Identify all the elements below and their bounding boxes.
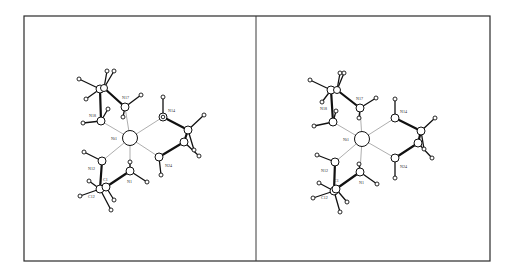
atom-n24 xyxy=(155,153,163,161)
label-c12: C12 xyxy=(88,194,95,199)
atom-c1 xyxy=(102,183,110,191)
label-n14: N14 xyxy=(168,108,175,113)
label-n12-right: N12 xyxy=(321,168,328,173)
label-ni1-right: Ni1 xyxy=(343,137,349,142)
label-c12-right: C12 xyxy=(321,195,328,200)
label-n17-right: N17 xyxy=(356,96,363,101)
label-n17: N17 xyxy=(122,95,129,100)
atom-ni1 xyxy=(123,131,138,146)
label-n1-right: N1 xyxy=(359,180,364,185)
label-n1: N1 xyxy=(127,179,132,184)
label-n24: N24 xyxy=(165,163,172,168)
atom-n18 xyxy=(97,117,105,125)
atom-n17 xyxy=(121,103,129,111)
label-n12: N12 xyxy=(88,166,95,171)
label-n18-right: N18 xyxy=(320,106,327,111)
stereo-molecule-figure: N18 N17 N14 Ni1 N24 N12 C1 N1 C12 xyxy=(0,0,511,279)
atom-n12 xyxy=(98,157,106,165)
label-n18: N18 xyxy=(89,113,96,118)
label-n14-right: N14 xyxy=(400,109,407,114)
left-molecule-view: N18 N17 N14 Ni1 N24 N12 C1 N1 C12 xyxy=(77,69,206,212)
right-molecule-view: N18 N17 N14 Ni1 N24 N12 C1 N1 C12 xyxy=(308,71,437,214)
label-c1: C1 xyxy=(103,177,108,182)
label-c1-right: C1 xyxy=(334,178,339,183)
label-ni1: Ni1 xyxy=(111,136,117,141)
atom-n1 xyxy=(126,167,134,175)
label-n24-right: N24 xyxy=(400,164,407,169)
